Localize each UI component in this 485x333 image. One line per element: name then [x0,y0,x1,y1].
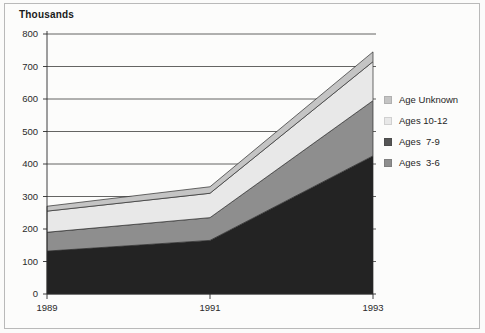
y-tick-label: 400 [22,158,38,169]
legend-label: Ages 3-6 [399,158,440,168]
y-tick-label: 800 [22,28,38,39]
legend-label: Age Unknown [399,95,458,105]
y-tick-label: 700 [22,61,38,72]
x-tick-label: 1989 [36,302,57,313]
legend-label: Ages 10-12 [399,116,448,126]
chart-page: Thousands 0100200300400500600700800 1989… [0,0,485,333]
x-tick-label: 1991 [199,302,220,313]
legend-label: Ages 7-9 [399,137,440,147]
legend-item: Ages 7-9 [384,132,480,152]
x-tick-label: 1993 [362,302,383,313]
legend-swatch [384,159,392,167]
y-tick-label: 300 [22,191,38,202]
y-tick-label: 0 [33,288,38,299]
legend-item: Ages 3-6 [384,153,480,173]
legend-item: Age Unknown [384,90,480,110]
y-tick-label: 500 [22,126,38,137]
legend-swatch [384,138,392,146]
y-tick-label: 600 [22,93,38,104]
legend-swatch [384,117,392,125]
chart-legend: Age UnknownAges 10-12Ages 7-9Ages 3-6 [384,90,480,174]
area-bands [47,52,373,294]
x-tick-labels: 198919911993 [36,302,383,313]
legend-swatch [384,96,392,104]
y-tick-label: 200 [22,223,38,234]
legend-item: Ages 10-12 [384,111,480,131]
y-tick-label: 100 [22,256,38,267]
y-tick-labels: 0100200300400500600700800 [22,28,38,299]
